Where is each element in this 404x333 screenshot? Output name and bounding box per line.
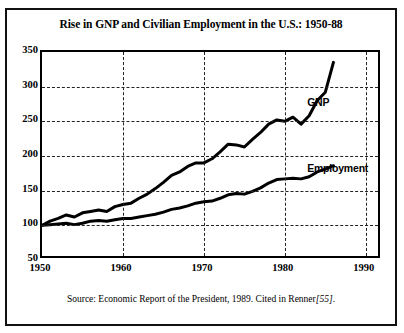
gridline-horizontal	[42, 156, 378, 157]
gridline-horizontal	[42, 191, 378, 192]
source-text: Source: Economic Report of the President…	[67, 294, 316, 304]
x-axis-tick-label: 1950	[20, 262, 60, 273]
x-axis-tick-label: 1960	[101, 262, 141, 273]
gridline-vertical	[204, 52, 205, 256]
figure-frame: Rise in GNP and Civilian Employment in t…	[5, 8, 397, 326]
y-axis-tick-label: 100	[8, 218, 38, 228]
gridline-vertical	[123, 52, 124, 256]
x-axis-tick-label: 1990	[344, 262, 384, 273]
y-axis-tick-label: 300	[8, 80, 38, 90]
gridline-horizontal	[42, 225, 378, 226]
x-axis-tick-label: 1980	[263, 262, 303, 273]
y-axis-tick-label: 350	[8, 45, 38, 55]
gridline-horizontal	[42, 121, 378, 122]
series-label-gnp: GNP	[307, 96, 329, 108]
plot-area	[40, 50, 380, 258]
y-axis-tick-label: 150	[8, 184, 38, 194]
series-line-employment	[42, 166, 333, 226]
y-axis-tick-label: 200	[8, 149, 38, 159]
source-citation: [55]	[316, 294, 333, 304]
gridline-horizontal	[42, 87, 378, 88]
y-axis-tick-label: 250	[8, 114, 38, 124]
x-axis-tick-label: 1970	[182, 262, 222, 273]
source-note: Source: Economic Report of the President…	[7, 294, 395, 304]
series-label-employment: Employment	[307, 162, 368, 174]
source-period: .	[333, 294, 335, 304]
gridline-vertical	[285, 52, 286, 256]
chart-title: Rise in GNP and Civilian Employment in t…	[7, 18, 395, 30]
gridline-vertical	[366, 52, 367, 256]
